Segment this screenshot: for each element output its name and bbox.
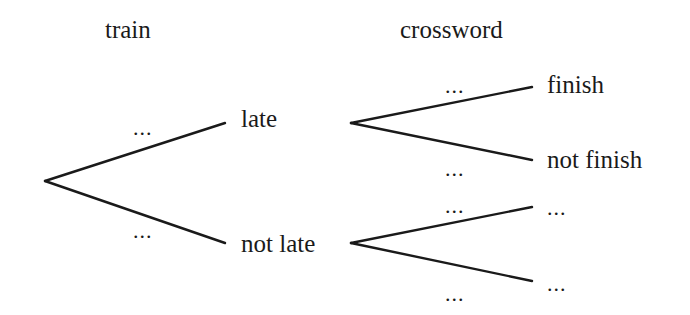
outcome-not-late: not late [241, 231, 315, 256]
branch-late-not-finish [351, 123, 532, 160]
outcome-late: late [241, 106, 277, 131]
prob-notlate-upper: ... [445, 195, 465, 217]
prob-finish: ... [445, 75, 465, 97]
prob-not-late: ... [133, 220, 153, 242]
prob-notlate-lower: ... [445, 283, 465, 305]
branch-late-finish [351, 87, 532, 123]
branch-notlate-lower [351, 243, 532, 281]
header-train: train [105, 17, 151, 42]
branch-notlate-upper [351, 207, 532, 243]
prob-late: ... [133, 117, 153, 139]
prob-not-finish: ... [445, 158, 465, 180]
outcome-not-finish: not finish [547, 147, 642, 172]
outcome-notlate-upper: ... [547, 197, 567, 219]
outcome-notlate-lower: ... [547, 273, 567, 295]
outcome-finish: finish [547, 72, 604, 97]
header-crossword: crossword [400, 17, 503, 42]
